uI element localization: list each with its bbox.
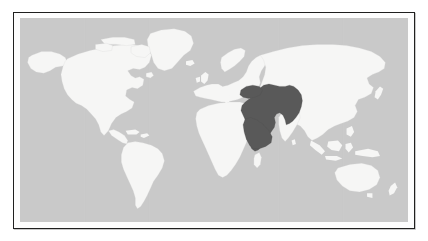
landmass-java	[325, 156, 342, 161]
world-map-figure	[0, 0, 428, 241]
landmass-north-america	[61, 44, 152, 135]
landmass-newfoundland	[146, 72, 154, 78]
map-inner-mat	[14, 13, 414, 228]
landmass-hispaniola	[141, 133, 150, 138]
landmass-sri-lanka	[292, 139, 296, 145]
landmass-philippines	[347, 126, 355, 137]
landmass-british-isles	[201, 72, 209, 84]
landmass-australia	[335, 163, 380, 192]
landmass-alaska	[28, 52, 68, 74]
landmass-new-zealand	[389, 182, 398, 195]
landmass-sulawesi	[345, 143, 353, 153]
landmass-iceland	[186, 60, 195, 66]
landmass-tasmania	[367, 193, 372, 198]
landmass-borneo	[327, 140, 342, 151]
world-map-svg	[20, 18, 408, 222]
landmass-ireland	[196, 77, 200, 83]
map-frame-border	[13, 12, 415, 229]
landmass-new-guinea	[355, 149, 380, 157]
landmass-cuba	[126, 130, 140, 135]
landmass-south-america	[121, 142, 164, 209]
landmass-madagascar	[254, 152, 262, 168]
landmass-central-america	[108, 130, 127, 144]
landmass-sumatra	[310, 140, 325, 154]
map-canvas-ocean	[20, 18, 408, 222]
landmass-scandinavia	[220, 48, 245, 72]
landmass-japan	[375, 86, 384, 99]
